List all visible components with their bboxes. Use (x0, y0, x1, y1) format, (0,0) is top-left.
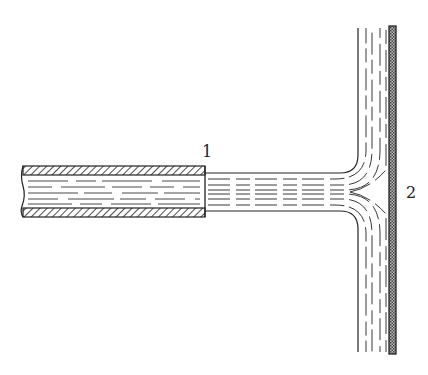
jet-streamlines (208, 28, 386, 352)
label-wall: 2 (406, 183, 416, 202)
pipe-flow-lines (28, 181, 200, 204)
label-nozzle-section: 1 (202, 142, 212, 161)
pipe (21, 166, 205, 217)
jet-boundary-upper (205, 28, 358, 173)
free-jet (205, 28, 386, 352)
wall-plate (389, 26, 396, 354)
jet-boundary-lower (205, 211, 358, 352)
jet-impingement-diagram: 1 2 (0, 0, 428, 375)
pipe-bottom-wall (23, 208, 205, 217)
pipe-top-wall (23, 166, 205, 175)
